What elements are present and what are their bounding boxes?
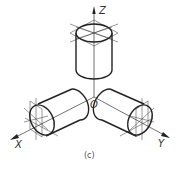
z-axis-arrow-icon (92, 6, 95, 14)
y-cylinder (93, 89, 157, 140)
x-cylinder (24, 89, 89, 140)
x-axis-label: X (14, 139, 23, 150)
isometric-cylinders-diagram: Z X Y O (c) (0, 0, 178, 172)
origin-label: O (90, 99, 98, 110)
z-axis-label: Z (98, 5, 107, 16)
figure-caption: (c) (84, 151, 95, 160)
y-axis-label: Y (158, 138, 165, 149)
